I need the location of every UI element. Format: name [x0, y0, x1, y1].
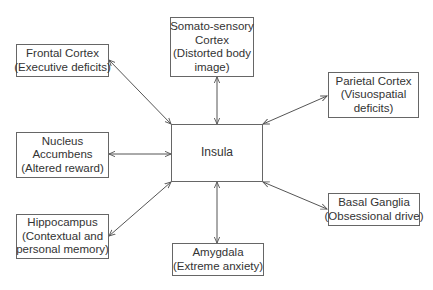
hippocampus-line-1: Hippocampus: [27, 216, 97, 230]
nucleus-line-2: Accumbens: [32, 148, 92, 162]
node-somatosensory-cortex: Somato-sensory Cortex (Distorted body im…: [170, 17, 254, 77]
parietal-line-3: deficits): [354, 102, 394, 116]
hippocampus-line-2: (Contextual and: [22, 230, 103, 244]
amygdala-title: Amygdala: [192, 246, 243, 260]
nucleus-line-3: (Altered reward): [21, 162, 103, 176]
basal-title: Basal Ganglia: [338, 196, 410, 210]
frontal-title: Frontal Cortex: [26, 47, 99, 61]
insula-label: Insula: [201, 146, 233, 160]
node-parietal-cortex: Parietal Cortex (Visuospatial deficits): [328, 72, 419, 118]
node-nucleus-accumbens: Nucleus Accumbens (Altered reward): [16, 132, 109, 178]
node-insula: Insula: [171, 124, 263, 182]
arrow-insula-parietal: [263, 96, 327, 124]
somato-line-3: (Distorted body: [173, 47, 251, 61]
somato-line-2: Cortex: [195, 34, 229, 48]
frontal-desc: (Executive deficits): [14, 61, 111, 75]
node-hippocampus: Hippocampus (Contextual and personal mem…: [16, 214, 109, 259]
node-basal-ganglia: Basal Ganglia (Obsessional drive): [328, 193, 420, 226]
insula-network-diagram: Insula Frontal Cortex (Executive deficit…: [0, 0, 433, 290]
arrow-insula-basal: [263, 182, 327, 209]
arrow-insula-hippocampus: [109, 182, 171, 236]
somato-line-4: image): [194, 61, 229, 75]
amygdala-desc: (Extreme anxiety): [173, 260, 263, 274]
hippocampus-line-3: personal memory): [16, 243, 109, 257]
node-amygdala: Amygdala (Extreme anxiety): [172, 243, 264, 276]
basal-desc: (Obsessional drive): [324, 210, 423, 224]
node-frontal-cortex: Frontal Cortex (Executive deficits): [16, 44, 109, 77]
parietal-line-2: (Visuospatial: [341, 88, 407, 102]
somato-line-1: Somato-sensory: [170, 20, 254, 34]
nucleus-line-1: Nucleus: [42, 135, 84, 149]
parietal-line-1: Parietal Cortex: [335, 75, 411, 89]
arrow-insula-frontal: [109, 60, 171, 124]
